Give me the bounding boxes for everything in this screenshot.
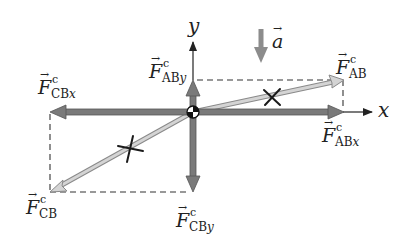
vector-arrow-mark: → [151, 53, 160, 64]
free-body-diagram: y x → a →F c AB →F c ABx →F c ABy →F c C… [0, 0, 420, 243]
force-label-F-ABy: →F c ABy [149, 62, 162, 81]
x-axis-label: x [378, 100, 389, 120]
y-axis-label: y [188, 16, 199, 36]
force-arrow-F-CBy [186, 112, 200, 192]
diagram-canvas [0, 0, 420, 243]
force-subscript: CBy [189, 221, 214, 233]
vector-arrow-mark: → [338, 49, 347, 60]
force-subscript: ABx [335, 136, 359, 148]
acceleration-label: → a [272, 32, 283, 51]
force-subscript: ABy [162, 72, 186, 84]
vector-arrow-mark: → [273, 23, 282, 34]
vector-arrow-mark: → [324, 117, 333, 128]
dashed-construction-lines [50, 80, 343, 192]
force-superscript: c [336, 122, 342, 133]
vector-arrow-mark: → [28, 189, 37, 200]
force-subscript: CB [39, 208, 57, 220]
force-arrow-F-CB [50, 112, 193, 192]
force-label-F-CB: →F c CB [26, 198, 39, 217]
force-superscript: c [40, 194, 46, 205]
acceleration-arrow [254, 29, 268, 63]
center-of-mass-icon [187, 106, 199, 118]
force-superscript: c [350, 54, 356, 65]
vector-arrow-mark: → [178, 202, 187, 213]
force-subscript: AB [349, 68, 366, 80]
force-superscript: c [190, 207, 196, 218]
force-subscript: CBx [51, 88, 76, 100]
force-superscript: c [52, 74, 58, 85]
force-label-F-CBx: →F c CBx [38, 78, 51, 97]
force-superscript: c [163, 58, 169, 69]
force-label-F-AB: →F c AB [336, 58, 349, 77]
force-label-F-ABx: →F c ABx [322, 126, 335, 145]
vector-arrow-mark: → [40, 69, 49, 80]
force-arrow-F-CBx [50, 105, 193, 119]
force-label-F-CBy: →F c CBy [176, 211, 189, 230]
